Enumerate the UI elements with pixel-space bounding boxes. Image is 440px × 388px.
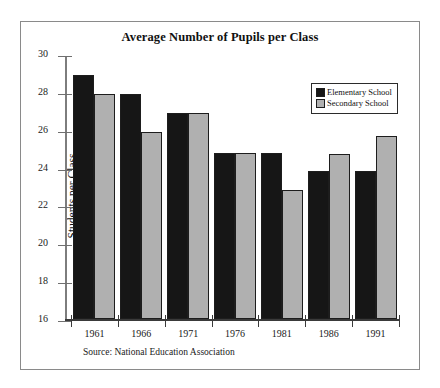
y-tick: 26 — [58, 132, 72, 133]
bar-elementary — [120, 94, 141, 319]
x-axis-label: 1991 — [346, 328, 406, 339]
bar-elementary — [167, 113, 188, 319]
bar-secondary — [376, 136, 397, 320]
source-note: Source: National Education Association — [83, 347, 235, 357]
y-tick: 28 — [58, 94, 72, 95]
bar-group: 1966 — [118, 94, 165, 319]
legend-label-secondary: Secondary School — [327, 98, 389, 109]
y-tick: 24 — [58, 170, 72, 171]
bar-secondary — [235, 153, 256, 319]
y-tick: 16 — [58, 321, 72, 322]
bar-group: 1986 — [305, 154, 352, 319]
y-tick-label: 28 — [38, 86, 48, 97]
bar-group: 1981 — [258, 153, 305, 319]
bar-elementary — [261, 153, 282, 319]
y-tick-label: 20 — [38, 237, 48, 248]
y-tick: 18 — [58, 283, 72, 284]
chart-figure-frame: Average Number of Pupils per Class Stude… — [20, 21, 420, 370]
x-tick — [399, 315, 400, 327]
bar-secondary — [329, 154, 350, 319]
chart-title: Average Number of Pupils per Class — [21, 30, 419, 45]
bar-group: 1976 — [212, 153, 259, 319]
bar-elementary — [73, 75, 94, 319]
y-axis-line — [65, 56, 67, 321]
y-tick-label: 22 — [38, 199, 48, 210]
bar-group: 1991 — [352, 136, 399, 320]
y-tick-label: 18 — [38, 275, 48, 286]
bar-group: 1971 — [165, 113, 212, 319]
bar-secondary — [188, 113, 209, 319]
bar-secondary — [282, 190, 303, 319]
y-tick-label: 30 — [38, 48, 48, 59]
bar-secondary — [94, 94, 115, 319]
y-tick: 20 — [58, 245, 72, 246]
legend-item-elementary: Elementary School — [316, 87, 392, 98]
bar-secondary — [141, 132, 162, 319]
legend-label-elementary: Elementary School — [327, 87, 392, 98]
y-tick-label: 16 — [38, 313, 48, 324]
bar-elementary — [214, 153, 235, 319]
y-tick-label: 26 — [38, 124, 48, 135]
y-tick: 30 — [58, 56, 72, 57]
legend-swatch-secondary-icon — [316, 99, 325, 108]
legend-item-secondary: Secondary School — [316, 98, 392, 109]
bar-elementary — [355, 171, 376, 319]
y-tick: 22 — [58, 207, 72, 208]
chart-legend: Elementary School Secondary School — [311, 83, 398, 114]
bar-elementary — [308, 171, 329, 319]
y-tick-label: 24 — [38, 162, 48, 173]
bar-group: 1961 — [71, 75, 118, 319]
legend-swatch-elementary-icon — [316, 88, 325, 97]
x-axis-line — [65, 319, 399, 321]
